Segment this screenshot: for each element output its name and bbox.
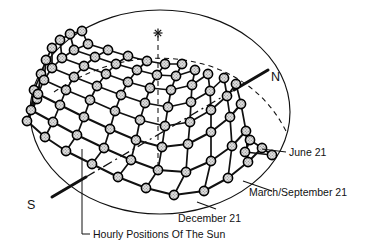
- sun-position-dot: [231, 79, 240, 88]
- sun-position-dot: [83, 39, 92, 48]
- sun-position-dot: [267, 150, 276, 159]
- sun-position-dot: [206, 127, 215, 136]
- sun-position-dot: [163, 102, 172, 111]
- sun-position-dot: [77, 26, 86, 35]
- sun-position-dot: [145, 83, 154, 92]
- south-label: S: [27, 198, 35, 212]
- sun-position-dot: [245, 135, 254, 144]
- december-21-label: December 21: [178, 212, 241, 224]
- sun-position-dot: [177, 59, 186, 68]
- sun-position-dot: [183, 139, 192, 148]
- sun-position-dot: [160, 121, 169, 130]
- sun-position-dot: [92, 81, 101, 90]
- sun-position-dot: [223, 173, 232, 182]
- june-21-label: June 21: [289, 146, 327, 158]
- sun-position-dot: [206, 105, 215, 114]
- zenith-asterisk-icon: [154, 29, 163, 38]
- sun-position-dot: [22, 116, 31, 125]
- sun-position-dot: [69, 72, 78, 81]
- sun-position-dot: [79, 112, 88, 121]
- sun-position-dot: [171, 71, 180, 80]
- sun-position-dot: [240, 147, 249, 156]
- sun-position-dot: [55, 100, 64, 109]
- sun-position-dot: [219, 73, 228, 82]
- sun-position-dot: [99, 143, 108, 152]
- sun-position-dot: [185, 117, 194, 126]
- sun-position-dot: [160, 59, 169, 68]
- sun-position-dot: [33, 89, 42, 98]
- sun-position-dot: [222, 91, 231, 100]
- sun-position-dot: [55, 35, 64, 44]
- sun-position-dot: [87, 159, 96, 168]
- sun-position-dot: [85, 95, 94, 104]
- sun-position-dot: [199, 186, 208, 195]
- sun-position-dot: [206, 156, 215, 165]
- sun-position-dot: [152, 70, 161, 79]
- sun-position-dot: [26, 105, 35, 114]
- sun-position-dot: [132, 65, 141, 74]
- sun-position-dot: [111, 59, 120, 68]
- sun-path-diagram: N S June 21 March/September 21 December …: [0, 0, 371, 248]
- sun-position-dot: [47, 63, 56, 72]
- sun-position-dot: [40, 132, 49, 141]
- sun-position-dot: [157, 142, 166, 151]
- sun-position-dot: [103, 45, 112, 54]
- sun-position-dot: [187, 80, 196, 89]
- sun-position-dot: [181, 167, 190, 176]
- sun-position-dot: [39, 75, 48, 84]
- sun-position-dot: [203, 69, 212, 78]
- sun-position-dot: [110, 106, 119, 115]
- sun-position-dot: [205, 86, 214, 95]
- sun-position-dot: [227, 141, 236, 150]
- sun-position-dot: [186, 97, 195, 106]
- sun-position-dot: [257, 143, 266, 152]
- north-label: N: [271, 70, 280, 84]
- sun-position-dot: [79, 61, 88, 70]
- sun-position-dot: [48, 117, 57, 126]
- sun-position-dot: [47, 43, 56, 52]
- sun-position-dot: [123, 77, 132, 86]
- sun-position-dot: [142, 56, 151, 65]
- sun-position-dot: [41, 55, 50, 64]
- sun-position-dot: [241, 126, 250, 135]
- sun-position-dot: [131, 135, 140, 144]
- sun-position-dot: [169, 190, 178, 199]
- sun-position-dot: [57, 53, 66, 62]
- sun-position-dot: [101, 69, 110, 78]
- sun-position-dot: [113, 172, 122, 181]
- sun-position-dot: [225, 112, 234, 121]
- sun-position-dot: [153, 165, 162, 174]
- sun-position-dot: [72, 130, 81, 139]
- sun-position-dot: [90, 52, 99, 61]
- sun-position-dot: [61, 146, 70, 155]
- hourly-positions-caption: Hourly Positions Of The Sun: [93, 228, 225, 240]
- sun-position-dot: [105, 124, 114, 133]
- sun-position-dot: [140, 98, 149, 107]
- sun-position-dot: [243, 157, 252, 166]
- sun-position-dot: [61, 85, 70, 94]
- diagram-canvas: N S June 21 March/September 21 December …: [0, 0, 371, 248]
- sun-position-dot: [141, 183, 150, 192]
- march-september-21-label: March/September 21: [249, 186, 347, 198]
- sun-position-dot: [69, 45, 78, 54]
- sun-position-dot: [65, 29, 74, 38]
- sun-position-dot: [116, 90, 125, 99]
- sun-position-dot: [166, 85, 175, 94]
- sun-position-dot: [236, 99, 245, 108]
- sun-position-dot: [126, 155, 135, 164]
- sun-position-dot: [123, 51, 132, 60]
- sun-position-dot: [190, 65, 199, 74]
- sun-position-dot: [135, 115, 144, 124]
